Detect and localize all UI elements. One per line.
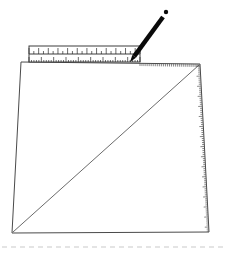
drawing-svg [0,0,225,254]
figure-canvas: Perspective square construction with rul… [0,0,225,254]
ruler[interactable] [29,46,140,62]
pencil-end-dot [164,10,168,14]
background [0,0,225,254]
